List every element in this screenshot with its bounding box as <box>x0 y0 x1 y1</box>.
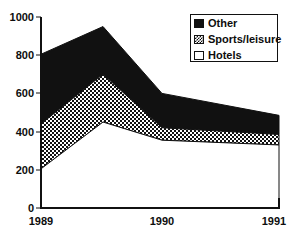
y-axis-tick-label-400: 400 <box>0 126 34 138</box>
checkered-square-icon <box>194 35 204 44</box>
y-axis-tick-label-1000: 1000 <box>0 11 34 23</box>
x-axis-tick-label-1990: 1990 <box>141 215 183 227</box>
x-axis-tick-label-1991: 1991 <box>253 215 295 227</box>
y-axis-tick-label-0: 0 <box>0 202 34 214</box>
stacked-area-chart: 1000 800 600 400 200 0 1989 1990 1991 Ot… <box>0 0 295 234</box>
legend-item-sports-leisure: Sports/leisure <box>194 32 277 47</box>
legend-label-hotels: Hotels <box>208 50 242 61</box>
legend-item-other: Other <box>194 16 277 31</box>
y-axis-tick-label-600: 600 <box>0 87 34 99</box>
chart-legend: Other Sports/leisure Hotels <box>190 14 278 62</box>
y-axis-tick-label-200: 200 <box>0 164 34 176</box>
white-square-icon <box>194 51 204 60</box>
legend-item-hotels: Hotels <box>194 48 277 63</box>
y-axis-tick-label-800: 800 <box>0 49 34 61</box>
x-axis-tick-label-1989: 1989 <box>20 215 62 227</box>
black-square-icon <box>194 19 204 28</box>
legend-label-other: Other <box>208 18 237 29</box>
legend-label-sports-leisure: Sports/leisure <box>208 34 281 45</box>
